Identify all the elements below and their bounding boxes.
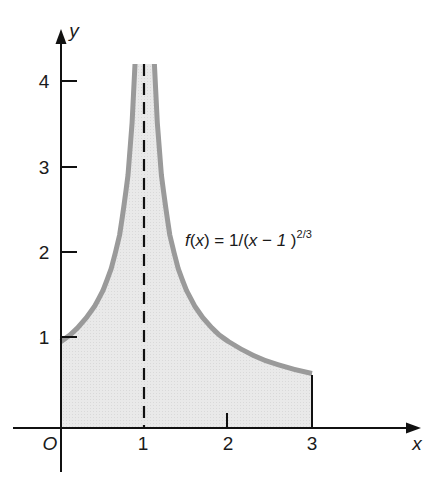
- fn-inner-var: x: [248, 231, 258, 250]
- x-tick-label-2: 2: [223, 433, 234, 454]
- y-tick-label-3: 3: [39, 157, 50, 178]
- y-tick-label-1: 1: [39, 327, 50, 348]
- origin-label: O: [43, 433, 58, 454]
- fn-var: x: [194, 231, 204, 250]
- fn-minus: −: [257, 231, 276, 250]
- fn-inner-const: 1: [277, 231, 286, 250]
- fn-equals: = 1/(: [210, 231, 250, 250]
- function-label: f(x) = 1/(x − 1 )2/3: [185, 228, 312, 250]
- x-tick-label-3: 3: [307, 433, 318, 454]
- x-tick-label-1: 1: [138, 433, 149, 454]
- x-axis-label: x: [411, 433, 423, 454]
- x-axis-arrow-icon: [406, 423, 421, 434]
- chart-canvas: 4 3 2 1 1 2 3 O x y f(x) = 1/(x − 1 )2/3: [0, 0, 442, 487]
- y-tick-label-2: 2: [39, 242, 50, 263]
- y-tick-label-4: 4: [39, 71, 50, 92]
- y-axis-label: y: [67, 20, 80, 41]
- fn-exponent: 2/3: [297, 228, 312, 240]
- fn-close: ): [286, 231, 296, 250]
- y-axis-arrow-icon: [56, 29, 67, 44]
